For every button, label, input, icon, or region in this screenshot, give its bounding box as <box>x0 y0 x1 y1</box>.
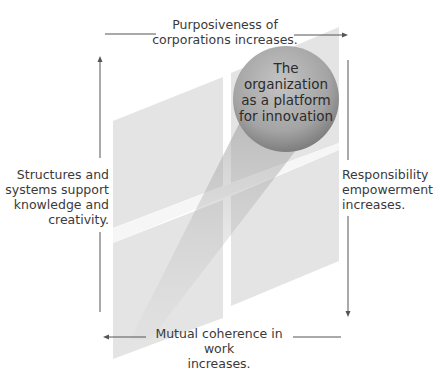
center-label-line: as a platform <box>234 92 338 108</box>
bottom-label-line: increases. <box>140 356 298 371</box>
top-label: Purposiveness of corporations increases. <box>150 17 300 47</box>
left-label-line: creativity. <box>0 212 109 227</box>
center-label-line: for innovation <box>234 108 338 124</box>
center-label-line: The <box>234 60 338 76</box>
right-label-line: increases. <box>342 197 438 212</box>
right-label: Responsibility empowerment increases. <box>342 167 438 212</box>
top-label-line: Purposiveness of <box>150 17 300 32</box>
left-label-line: knowledge and <box>0 197 109 212</box>
left-label-line: systems support <box>0 182 109 197</box>
top-label-line: corporations increases. <box>150 32 300 47</box>
right-label-line: Responsibility <box>342 167 438 182</box>
bottom-label-line: Mutual coherence in work <box>140 326 298 356</box>
right-label-line: empowerment <box>342 182 438 197</box>
left-label-line: Structures and <box>0 167 109 182</box>
left-label: Structures and systems support knowledge… <box>0 167 109 227</box>
bottom-label: Mutual coherence in work increases. <box>140 326 298 371</box>
center-label: The organization as a platform for innov… <box>234 60 338 124</box>
center-label-line: organization <box>234 76 338 92</box>
